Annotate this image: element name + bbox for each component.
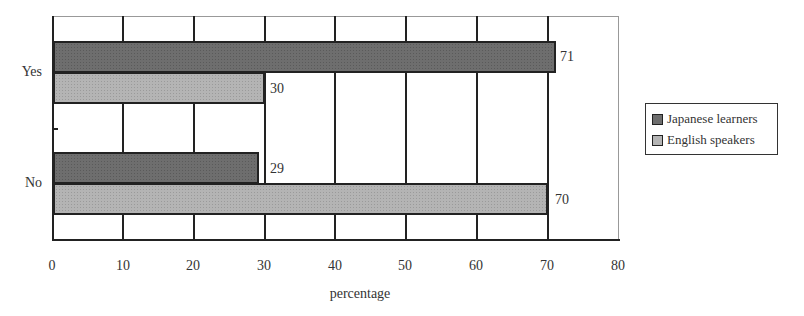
bar-yes-english-speakers [53, 72, 265, 104]
legend-label: English speakers [667, 132, 755, 148]
bar-no-english-speakers [53, 183, 548, 215]
legend-item-japanese-learners: Japanese learners [652, 110, 758, 128]
value-label-no-en: 70 [555, 192, 569, 208]
x-tick-label: 40 [320, 258, 350, 274]
category-label-no: No [2, 175, 42, 191]
legend-swatch-light-icon [652, 135, 663, 146]
category-label-yes: Yes [2, 64, 42, 80]
legend: Japanese learners English speakers [645, 103, 778, 155]
value-label-yes-jp: 71 [560, 49, 574, 65]
legend-swatch-dark-icon [652, 114, 663, 125]
bar-no-japanese-learners [53, 152, 259, 184]
value-label-no-jp: 29 [270, 161, 284, 177]
x-tick-label: 70 [532, 258, 562, 274]
x-tick-label: 50 [390, 258, 420, 274]
legend-item-english-speakers: English speakers [652, 131, 755, 149]
x-tick-label: 80 [603, 258, 633, 274]
x-tick-label: 20 [178, 258, 208, 274]
x-axis [52, 239, 620, 241]
x-tick-label: 10 [108, 258, 138, 274]
legend-label: Japanese learners [667, 111, 758, 127]
x-tick-label: 0 [37, 258, 67, 274]
x-tick-label: 30 [249, 258, 279, 274]
bar-chart: 71 30 Yes 29 70 No 0 10 20 30 40 50 60 7… [0, 0, 804, 316]
x-tick-label: 60 [461, 258, 491, 274]
value-label-yes-en: 30 [270, 81, 284, 97]
x-axis-title: percentage [300, 286, 420, 302]
bar-yes-japanese-learners [53, 41, 556, 73]
y-tick [52, 128, 58, 130]
